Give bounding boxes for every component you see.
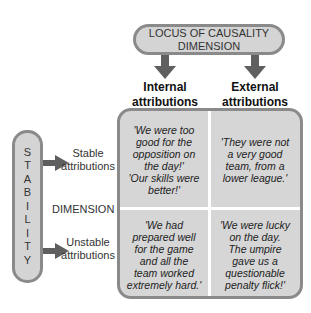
locus-of-causality-box: LOCUS OF CAUSALITY DIMENSION	[133, 24, 285, 55]
cell-stable-external: 'They were not a very good team, from a …	[212, 119, 298, 201]
arrow-down-icon	[244, 55, 266, 79]
internal-attributions-heading: Internal attributions	[120, 80, 210, 110]
stability-box: S T A B I L I T Y	[12, 130, 43, 283]
stability-letter: I	[26, 227, 29, 241]
cell-line: lower league.'	[212, 172, 298, 184]
heading-line: Internal	[120, 80, 210, 95]
cell-line: 'We were too	[121, 124, 207, 136]
stability-letter: B	[24, 186, 31, 200]
locus-title-line1: LOCUS OF CAUSALITY	[149, 27, 269, 40]
stability-letter: T	[24, 240, 31, 254]
cell-line: prepared well	[121, 231, 207, 243]
arrow-down-icon	[154, 55, 176, 79]
cell-line: gave us a	[212, 255, 298, 267]
cell-line: the day!'	[121, 160, 207, 172]
cell-line: questionable	[212, 267, 298, 279]
attribution-grid: 'We were too good for the opposition on …	[117, 108, 303, 299]
cell-line: good for the	[121, 136, 207, 148]
row-label-line: attributions	[60, 249, 116, 262]
cell-line: 'They were not	[212, 136, 298, 148]
cell-line: for the game	[121, 243, 207, 255]
stability-letter: T	[24, 159, 31, 173]
stability-letter: S	[24, 146, 31, 160]
cell-line: and all the	[121, 255, 207, 267]
locus-title-line2: DIMENSION	[178, 40, 240, 53]
heading-line: External	[210, 80, 300, 95]
cell-unstable-external: 'We were lucky on the day. The umpire ga…	[212, 215, 298, 295]
cell-line: better!'	[121, 184, 207, 196]
cell-line: 'We were lucky	[212, 219, 298, 231]
stability-dimension-label: DIMENSION	[52, 203, 114, 215]
row-label-line: Stable	[60, 147, 116, 160]
unstable-attributions-label: Unstable attributions	[60, 236, 116, 262]
horizontal-divider	[117, 207, 303, 210]
vertical-divider	[208, 108, 211, 299]
stability-letter: I	[26, 200, 29, 214]
cell-line: penalty flick!'	[212, 279, 298, 291]
cell-unstable-internal: 'We had prepared well for the game and a…	[121, 215, 207, 295]
stability-letter: L	[24, 213, 30, 227]
stability-letter: A	[24, 173, 31, 187]
cell-line: The umpire	[212, 243, 298, 255]
cell-line: extremely hard.'	[121, 279, 207, 291]
stable-attributions-label: Stable attributions	[60, 147, 116, 173]
cell-line: opposition on	[121, 148, 207, 160]
stability-letter: Y	[24, 254, 31, 268]
row-label-line: attributions	[60, 160, 116, 173]
cell-line: on the day.	[212, 231, 298, 243]
cell-line: team, from a	[212, 160, 298, 172]
cell-stable-internal: 'We were too good for the opposition on …	[121, 119, 207, 201]
row-label-line: Unstable	[60, 236, 116, 249]
cell-line: a very good	[212, 148, 298, 160]
external-attributions-heading: External attributions	[210, 80, 300, 110]
cell-line: 'We had	[121, 219, 207, 231]
cell-line: team worked	[121, 267, 207, 279]
cell-line: 'Our skills were	[121, 172, 207, 184]
